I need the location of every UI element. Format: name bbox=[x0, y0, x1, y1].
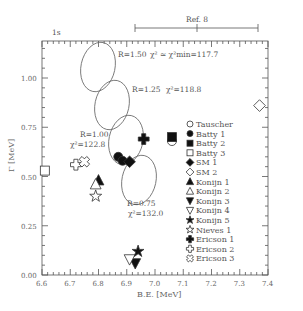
x-tick-label: 6.9 bbox=[121, 280, 132, 288]
legend-icon bbox=[186, 159, 194, 167]
y-tick-label: 0.75 bbox=[21, 124, 37, 132]
ellipse-chi2-r150: χ² ≃ χ²min=117.7 bbox=[150, 50, 218, 59]
x-tick-label: 7.1 bbox=[177, 280, 188, 288]
marker-sm-2 bbox=[254, 100, 266, 112]
ellipse-label-r100: R=1.00 bbox=[80, 130, 109, 139]
ellipse-chi2-r125: χ²=118.8 bbox=[166, 85, 202, 94]
x-tick-label: 6.7 bbox=[64, 280, 75, 288]
legend-icon bbox=[186, 187, 193, 194]
legend-label: Ericson 1 bbox=[196, 235, 234, 244]
y-tick-label: 1.00 bbox=[21, 75, 37, 83]
legend-label: SM 1 bbox=[196, 158, 217, 167]
marker-batty-3 bbox=[40, 166, 49, 175]
legend-label: Ericson 2 bbox=[196, 245, 234, 254]
legend-label: SM 2 bbox=[196, 168, 217, 177]
marker-ericson-1 bbox=[138, 134, 149, 145]
legend-icon bbox=[186, 168, 194, 176]
legend-icon bbox=[186, 216, 194, 224]
legend-icon bbox=[186, 236, 193, 243]
x-tick-label: 6.6 bbox=[36, 280, 48, 288]
marker-nieves-1 bbox=[90, 190, 102, 201]
legend-icon bbox=[187, 131, 193, 137]
legend-label: Batty 2 bbox=[196, 139, 225, 148]
ellipse-chi2-r075: χ²=132.0 bbox=[128, 209, 164, 218]
legend-label: Batty 1 bbox=[196, 130, 225, 139]
ellipse-label-r125: R=1.25 bbox=[132, 85, 161, 94]
legend: TauscherBatty 1Batty 2Batty 3SM 1SM 2Kon… bbox=[185, 120, 235, 263]
legend-label: Batty 3 bbox=[196, 149, 225, 158]
y-tick-label: 0.00 bbox=[21, 272, 37, 280]
legend-icon bbox=[186, 225, 194, 233]
legend-icon bbox=[185, 253, 195, 263]
marker-batty-2 bbox=[167, 133, 176, 142]
legend-label: Konijn 4 bbox=[196, 206, 230, 215]
state-label: 1s bbox=[52, 28, 61, 37]
y-tick-label: 0.50 bbox=[21, 174, 37, 182]
chart: 1s Ref. 8 6.66.76.86.97.07.17.27.37.4 0.… bbox=[0, 0, 303, 311]
ref-range-bar bbox=[135, 24, 258, 32]
ellipse-r125 bbox=[90, 77, 134, 133]
legend-label: Ericson 3 bbox=[196, 254, 234, 263]
ellipse-label-r075: R=0.75 bbox=[127, 199, 156, 208]
x-tick-label: 6.8 bbox=[93, 280, 104, 288]
y-tick-label: 0.25 bbox=[21, 223, 37, 231]
legend-icon bbox=[187, 140, 193, 146]
ellipse-r150 bbox=[76, 39, 120, 95]
legend-icon bbox=[187, 150, 193, 156]
ellipse-label-r150: R=1.50 bbox=[118, 50, 147, 59]
x-tick-label: 7.4 bbox=[262, 280, 274, 288]
legend-label: Konijn 3 bbox=[196, 197, 230, 206]
legend-icon bbox=[186, 178, 193, 185]
legend-label: Nieves 1 bbox=[196, 226, 231, 235]
legend-icon bbox=[186, 198, 193, 205]
legend-label: Konijn 2 bbox=[196, 187, 230, 196]
ref-label: Ref. 8 bbox=[186, 15, 208, 24]
legend-label: Konijn 1 bbox=[196, 178, 230, 187]
ellipse-chi2-r100: χ²=122.8 bbox=[70, 140, 106, 149]
x-tick-label: 7.3 bbox=[234, 280, 245, 288]
legend-icon bbox=[186, 245, 193, 252]
legend-label: Konijn 5 bbox=[196, 216, 230, 225]
y-axis-label: Γ [MeV] bbox=[7, 139, 16, 172]
x-tick-label: 7.0 bbox=[149, 280, 160, 288]
legend-icon bbox=[186, 207, 193, 214]
legend-icon bbox=[187, 121, 193, 127]
legend-label: Tauscher bbox=[196, 120, 233, 129]
x-tick-label: 7.2 bbox=[206, 280, 217, 288]
chi2-contours bbox=[76, 39, 161, 208]
x-axis-label: B.E. [MeV] bbox=[137, 290, 181, 299]
